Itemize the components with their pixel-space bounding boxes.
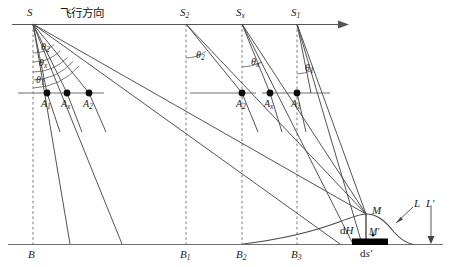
element-label-ds-prime: ds′ [360,248,372,259]
terrain-foot-label-M-prime: M′ [369,227,380,237]
angle-label-theta2-S: θ2 [41,42,50,53]
ground-point-label-A2-right: A2 [236,99,246,110]
ray-S1-to-M [297,24,366,214]
dot-A2-left [86,90,93,97]
diagram-canvas: 飞行方向 S S2 Sx S1 θ2 θx θ1 θ2 θx θ1 A1 Ax … [0,0,451,267]
ray-S2-to-M [186,24,366,214]
label-Lprime-leader [428,207,435,244]
ray-S1-A1 [297,24,311,93]
angle-label-theta2-S2: θ2 [196,50,205,61]
ray-S2-A2 [186,24,242,93]
sensor-label-Sx: Sx [236,7,245,19]
rays-from-S2 [186,24,366,214]
ray-S-to-Mprime [33,24,340,244]
angle-label-theta1-S: θ1 [36,75,45,86]
base-point-label-B1: B1 [180,249,190,261]
rays-from-S1 [297,24,366,244]
ground-point-label-A1-left: A1 [41,99,51,110]
ray-S-ground-2 [33,24,122,244]
base-point-label-B: B [28,249,35,260]
angle-label-thetax-S: θx [39,58,47,69]
label-L-leader [396,207,413,223]
ray-Sx-to-M [242,24,366,214]
ground-point-label-Ax-left: Ax [61,99,70,110]
base-point-label-B2: B2 [236,249,246,261]
leader-arrow-Lprime-icon [428,236,435,244]
datum-label-L-prime: L′ [426,198,435,209]
curve-label-L: L [414,198,420,209]
dot-A1-right [294,90,301,97]
ray-S1-to-bar [297,24,362,244]
base-point-label-B3: B3 [291,249,301,261]
sensor-label-S2: S2 [180,7,189,19]
flight-direction-arrow-icon [338,21,349,29]
ground-point-label-A2-left: A2 [83,99,93,110]
dot-A1-left [44,90,51,97]
terrain-peak-label-M: M [372,205,381,216]
dot-Ax-left [64,90,71,97]
flight-direction-label: 飞行方向 [60,8,104,20]
ground-point-label-Ax-right: Ax [264,99,273,110]
sensor-label-S: S [27,7,33,18]
dot-A2-right [239,90,246,97]
height-label-dH: dH [340,225,353,236]
dot-Ax-right [267,90,274,97]
ground-point-label-A1-right: A1 [291,99,301,110]
ds-prime-bar [352,239,388,246]
diagram-vector-layer [0,0,451,267]
angle-label-theta1-S1: θ1 [305,63,314,74]
sensor-label-S1: S1 [291,7,300,19]
angle-label-thetax-Sx: θx [251,57,259,68]
